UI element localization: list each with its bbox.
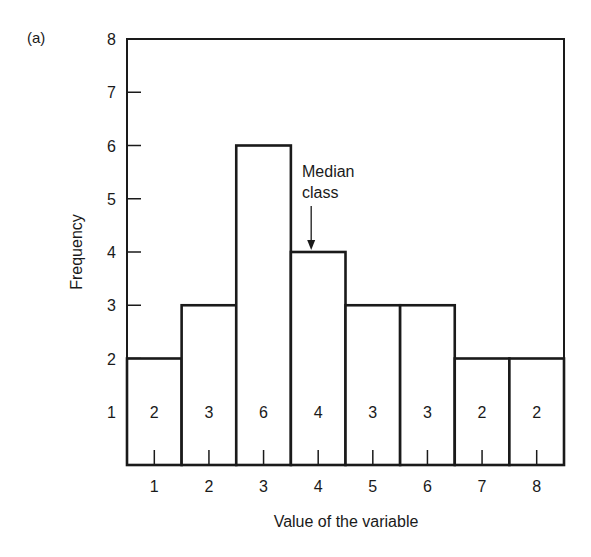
histogram-bar <box>346 305 401 465</box>
y-tick-label: 4 <box>107 244 116 261</box>
x-tick-label: 6 <box>423 478 432 495</box>
bar-frequency-label: 6 <box>259 404 268 421</box>
bar-frequency-label: 3 <box>423 404 432 421</box>
y-tick-label: 5 <box>107 191 116 208</box>
y-tick-label: 7 <box>107 84 116 101</box>
histogram-bar <box>291 252 346 465</box>
y-tick-label: 2 <box>107 351 116 368</box>
x-tick-label: 7 <box>478 478 487 495</box>
bar-frequency-label: 3 <box>368 404 377 421</box>
annotation-text: class <box>302 184 338 201</box>
svg-text:Frequency: Frequency <box>68 214 85 290</box>
bar-frequency-label: 4 <box>314 404 323 421</box>
y-tick-label: 1 <box>107 404 116 421</box>
bar-frequency-label: 2 <box>150 404 159 421</box>
y-tick-label: 6 <box>107 138 116 155</box>
x-tick-label: 4 <box>314 478 323 495</box>
x-tick-label: 5 <box>368 478 377 495</box>
annotation-text: Median <box>302 163 354 180</box>
histogram-chart: (a) Frequency 12345678 23643322 12345678… <box>0 0 591 557</box>
median-class-annotation: Medianclass <box>302 163 354 250</box>
y-tick-label: 3 <box>107 297 116 314</box>
x-axis-label: Value of the variable <box>274 513 419 530</box>
y-tick-label: 8 <box>107 31 116 48</box>
histogram-bars: 23643322 <box>127 146 564 466</box>
x-tick-label: 8 <box>532 478 541 495</box>
histogram-bar <box>400 305 455 465</box>
x-tick-label: 3 <box>259 478 268 495</box>
bar-frequency-label: 3 <box>204 404 213 421</box>
histogram-bar <box>182 305 237 465</box>
panel-label: (a) <box>27 29 45 46</box>
bar-frequency-label: 2 <box>478 404 487 421</box>
x-tick-label: 1 <box>150 478 159 495</box>
bar-frequency-label: 2 <box>532 404 541 421</box>
arrow-down-icon <box>307 240 315 250</box>
y-axis-label: Frequency <box>68 214 85 290</box>
x-tick-label: 2 <box>204 478 213 495</box>
